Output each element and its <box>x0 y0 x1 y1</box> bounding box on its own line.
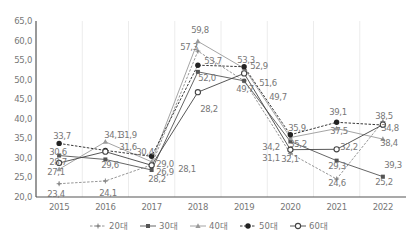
data-label: 39,3 <box>384 160 402 170</box>
y-tick-label: 35,0 <box>14 133 32 143</box>
legend-label: 20대 <box>109 221 128 231</box>
data-label: 24,1 <box>99 188 117 198</box>
data-label: 32,2 <box>340 142 358 152</box>
data-label: 59,8 <box>191 25 209 35</box>
data-labels: 33,730,628,727,123,434,131,931,629,624,1… <box>47 25 402 199</box>
legend-item-60대: 60대 <box>290 221 328 231</box>
data-label: 53,7 <box>204 56 222 66</box>
y-tick-label: 55,0 <box>14 55 32 65</box>
x-axis-ticks: 20152016201720182019202020212022 <box>49 202 393 212</box>
data-label: 35,9 <box>288 123 306 133</box>
data-label: 57,3 <box>180 42 198 52</box>
x-tick-label: 2020 <box>280 202 300 212</box>
x-tick-label: 2021 <box>326 202 346 212</box>
data-label: 31,1 <box>262 153 280 163</box>
y-tick-label: 40,0 <box>14 114 32 124</box>
legend-item-20대: 20대 <box>90 221 128 231</box>
data-label: 25,2 <box>375 177 393 187</box>
legend-item-50대: 50대 <box>240 221 278 231</box>
data-label: 23,4 <box>47 189 65 199</box>
data-label: 34,2 <box>262 142 280 152</box>
data-label: 28,2 <box>148 174 166 184</box>
data-label: 52,0 <box>198 73 216 83</box>
data-label: 28,7 <box>49 157 67 167</box>
data-label: 24,6 <box>328 178 346 188</box>
x-tick-label: 2015 <box>49 202 69 212</box>
y-tick-label: 30,0 <box>14 153 32 163</box>
data-label: 32,1 <box>281 154 299 164</box>
data-label: 38,5 <box>375 111 393 121</box>
data-label: 37,5 <box>330 126 348 136</box>
data-label: 35,2 <box>289 139 307 149</box>
x-tick-label: 2022 <box>373 202 393 212</box>
legend-item-30대: 30대 <box>140 221 178 231</box>
y-tick-label: 50,0 <box>14 75 32 85</box>
legend-label: 50대 <box>259 221 278 231</box>
data-label: 29,3 <box>328 161 346 171</box>
y-tick-label: 60,0 <box>14 36 32 46</box>
data-label: 31,6 <box>119 142 137 152</box>
x-tick-label: 2017 <box>141 202 161 212</box>
x-tick-label: 2016 <box>95 202 115 212</box>
data-label: 39,1 <box>329 107 347 117</box>
line-chart: 20,025,030,035,040,045,050,055,060,065,0… <box>0 0 416 240</box>
y-tick-label: 45,0 <box>14 94 32 104</box>
data-label: 52,9 <box>250 61 268 71</box>
x-tick-label: 2018 <box>188 202 208 212</box>
data-label: 29,6 <box>101 160 119 170</box>
data-label: 34,8 <box>381 123 399 133</box>
legend-item-40대: 40대 <box>190 221 228 231</box>
y-tick-label: 20,0 <box>14 192 32 202</box>
gridlines <box>82 21 360 197</box>
legend: 20대30대40대50대60대 <box>90 221 328 231</box>
data-label: 30,4 <box>136 147 154 157</box>
data-label: 33,7 <box>53 131 71 141</box>
legend-label: 60대 <box>309 221 328 231</box>
y-tick-label: 65,0 <box>14 16 32 26</box>
data-label: 38,4 <box>380 138 398 148</box>
data-label: 31,9 <box>119 130 137 140</box>
data-label: 49,7 <box>236 84 254 94</box>
data-label: 30,6 <box>49 147 67 157</box>
y-axis-ticks: 20,025,030,035,040,045,050,055,060,065,0 <box>14 16 32 202</box>
legend-label: 30대 <box>159 221 178 231</box>
data-label: 49,7 <box>269 92 287 102</box>
data-label: 28,2 <box>200 104 218 114</box>
x-tick-label: 2019 <box>234 202 254 212</box>
y-tick-label: 25,0 <box>14 172 32 182</box>
data-label: 28,1 <box>178 164 196 174</box>
data-label: 51,6 <box>259 78 277 88</box>
data-label: 27,1 <box>47 167 65 177</box>
legend-label: 40대 <box>209 221 228 231</box>
